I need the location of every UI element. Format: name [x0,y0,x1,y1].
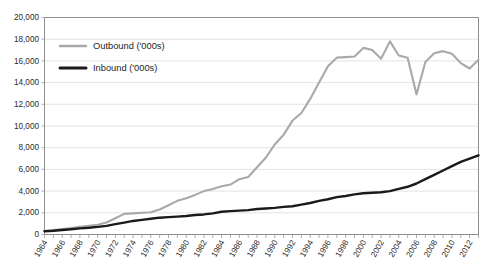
x-axis-tick-label: 1998 [334,238,351,259]
chart-legend: Outbound ('000s)Inbound ('000s) [60,41,165,73]
x-axis-tick-label: 1980 [174,238,191,259]
y-axis-tick-label: 12,000 [14,100,39,109]
legend-label-inbound: Inbound ('000s) [93,63,157,73]
y-axis-tick-label: 16,000 [14,57,39,66]
x-axis-tick-label: 1964 [33,238,50,259]
x-axis-tick-label: 1982 [192,238,209,259]
y-axis-tick-label: 10,000 [14,122,39,131]
x-axis-tick-label: 1986 [227,238,244,259]
line-chart: 20,00018,00016,00014,00012,00010,0008,00… [0,0,491,276]
y-axis-tick-label: 20,000 [14,13,39,22]
x-axis-tick-label: 1968 [68,238,85,259]
x-axis-tick-label: 1966 [50,238,67,259]
x-axis-tick-label: 1988 [245,238,262,259]
x-axis-tick-label: 2000 [351,238,368,259]
y-axis-tick-label: 0 [34,230,39,239]
y-axis-tick-label: 2,000 [19,208,40,217]
x-axis-tick-label: 1990 [263,238,280,259]
x-axis-tick-label: 1994 [298,238,315,259]
chart-canvas: 20,00018,00016,00014,00012,00010,0008,00… [0,0,491,276]
x-axis-tick-label: 1976 [139,238,156,259]
x-axis-tick-label: 1974 [121,238,138,259]
x-axis-tick-label: 1972 [103,238,120,259]
y-axis-tick-label: 14,000 [14,78,39,87]
x-axis-tick-label: 2010 [440,238,457,259]
legend-label-outbound: Outbound ('000s) [93,41,165,51]
y-axis-tick-labels: 20,00018,00016,00014,00012,00010,0008,00… [14,13,39,239]
x-axis-tick-label: 2006 [405,238,422,259]
x-axis-tick-label: 1996 [316,238,333,259]
y-axis-tick-label: 6,000 [19,165,40,174]
x-axis-tick-label: 1984 [210,238,227,259]
x-axis-tick-label: 2008 [422,238,439,259]
x-axis-tick-label: 2002 [369,238,386,259]
x-axis-tick-label: 2012 [458,238,475,259]
y-axis-tick-label: 18,000 [14,35,39,44]
x-axis-tick-label: 1978 [157,238,174,259]
x-axis-tick-label: 1970 [86,238,103,259]
x-axis-tick-label: 1992 [281,238,298,259]
y-axis-tick-label: 8,000 [19,143,40,152]
y-axis-tick-label: 4,000 [19,187,40,196]
x-axis-tick-marks [45,235,479,239]
x-axis-tick-labels: 1964196619681970197219741976197819801982… [33,238,475,259]
x-axis-tick-label: 2004 [387,238,404,259]
series-line-inbound [45,155,479,231]
